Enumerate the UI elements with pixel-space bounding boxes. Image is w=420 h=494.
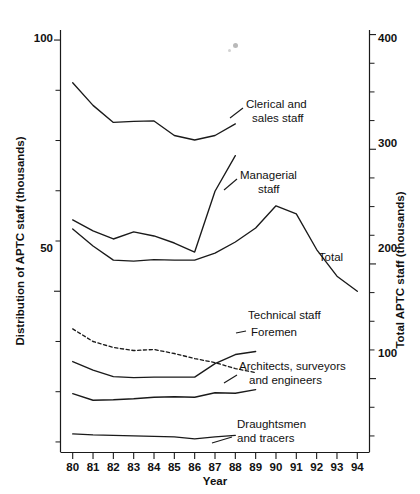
leader-clerical (230, 108, 243, 118)
x-tick-labels: 808182838485868788899091929394 (66, 461, 364, 473)
series-label-clerical: Clerical and sales staff (246, 98, 307, 124)
leader-draughtsmen (212, 437, 232, 443)
series-label-foremen: Foremen (251, 326, 297, 338)
left-tick-labels: 100 50 (34, 32, 53, 254)
series-label-clerical-line2: sales staff (252, 112, 304, 124)
scan-speck (233, 43, 238, 48)
x-tick-label: 88 (229, 461, 242, 473)
x-tick-label: 92 (310, 461, 323, 473)
right-axis (370, 30, 377, 452)
series-label-technical: Technical staff (248, 309, 321, 321)
x-tick-label: 85 (168, 461, 181, 473)
series-line-foremen (73, 329, 256, 373)
x-tick-label: 82 (107, 461, 120, 473)
series-label-draughtsmen: Draughtsmen and tracers (237, 418, 306, 444)
series-line-total (73, 206, 358, 291)
x-tick-label: 93 (331, 461, 344, 473)
left-tick-label-50: 50 (40, 242, 53, 254)
x-axis-title: Year (203, 475, 228, 487)
x-tick-label: 81 (87, 461, 100, 473)
series-label-draughtsmen-line1: Draughtsmen (237, 418, 306, 430)
left-axis (54, 30, 61, 452)
chart-canvas: 100 50 400 300 200 100 80818283848586878… (0, 0, 420, 494)
series-line-clerical-and-sales-staff (73, 83, 236, 140)
series-label-managerial-line1: Managerial (240, 169, 297, 181)
series-line-draughtsmen-and-tracers (73, 434, 236, 439)
left-tick-label-100: 100 (34, 32, 53, 44)
right-tick-label-300: 300 (378, 137, 397, 149)
left-axis-title: Distribution of APTC staff (thousands) (14, 136, 26, 345)
x-tick-label: 87 (209, 461, 222, 473)
series-label-architects-line2: and engineers (249, 374, 322, 386)
series-label-total: Total (319, 251, 343, 263)
x-tick-label: 94 (351, 461, 364, 473)
leader-managerial (224, 179, 237, 190)
series-line-architects-surveyors-and-engineers (73, 390, 256, 401)
x-tick-label: 90 (270, 461, 283, 473)
leader-foremen (236, 331, 246, 333)
series-line-managerial-staff (73, 156, 236, 252)
x-tick-label: 80 (66, 461, 79, 473)
series-label-architects: Architects, surveyors and engineers (239, 360, 346, 386)
x-tick-label: 83 (127, 461, 140, 473)
x-tick-label: 89 (249, 461, 262, 473)
x-tick-label: 84 (148, 461, 161, 473)
series-line-technical-staff (73, 352, 256, 378)
chart-figure: 100 50 400 300 200 100 80818283848586878… (0, 0, 420, 494)
x-tick-label: 91 (290, 461, 303, 473)
series-label-draughtsmen-line2: and tracers (237, 432, 295, 444)
x-tick-label: 86 (188, 461, 201, 473)
right-tick-label-400: 400 (378, 32, 397, 44)
leader-architects (224, 375, 237, 383)
series-label-architects-line1: Architects, surveyors (239, 360, 346, 372)
series-label-managerial: Managerial staff (240, 169, 297, 195)
series-label-clerical-line1: Clerical and (246, 98, 307, 110)
series-label-managerial-line2: staff (258, 183, 280, 195)
x-axis (61, 453, 370, 460)
scan-speck (228, 49, 231, 52)
right-axis-title: Total APTC staff (thousands) (394, 191, 406, 348)
